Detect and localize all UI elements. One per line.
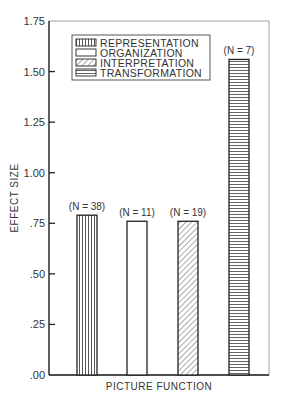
y-tick-label: .50 <box>30 268 45 280</box>
y-tick-label: 1.50 <box>24 66 45 78</box>
n-annotation: (N = 19) <box>170 207 206 218</box>
legend-swatch <box>76 39 96 46</box>
legend: REPRESENTATIONORGANIZATIONINTERPRETATION… <box>72 35 210 80</box>
y-ticks: .00.25.50.751.001.251.501.75 <box>24 15 55 381</box>
y-axis-label: EFFECT SIZE <box>9 163 20 232</box>
legend-label: TRANSFORMATION <box>100 67 202 79</box>
y-tick-label: 1.75 <box>24 15 45 27</box>
bar-transformation <box>229 59 249 375</box>
bars: (N = 38)(N = 11)(N = 19)(N = 7) <box>69 45 255 375</box>
y-tick-label: 1.25 <box>24 116 45 128</box>
legend-swatch <box>76 59 96 66</box>
n-annotation: (N = 7) <box>224 45 255 56</box>
y-tick-label: 1.00 <box>24 167 45 179</box>
n-annotation: (N = 11) <box>119 207 155 218</box>
legend-swatch <box>76 49 96 56</box>
y-tick-label: .25 <box>30 318 45 330</box>
y-tick-label: .00 <box>30 369 45 381</box>
y-tick-label: .75 <box>30 217 45 229</box>
effect-size-bar-chart: .00.25.50.751.001.251.501.75 (N = 38)(N … <box>0 0 284 399</box>
legend-swatch <box>76 69 96 76</box>
bar-representation <box>77 215 97 375</box>
x-axis-label: PICTURE FUNCTION <box>106 381 212 392</box>
bar-organization <box>127 221 147 375</box>
bar-interpretation <box>178 221 198 375</box>
n-annotation: (N = 38) <box>69 201 105 212</box>
